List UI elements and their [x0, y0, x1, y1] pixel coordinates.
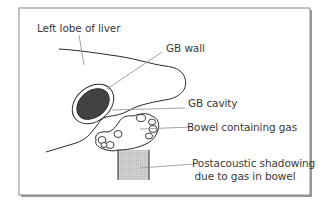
label-gb-cavity: GB cavity — [188, 97, 237, 109]
acoustic-shadow — [118, 150, 149, 180]
ultrasound-diagram: Left lobe of liver GB wall GB cavity Bow… — [0, 0, 325, 206]
label-bowel-containing-gas: Bowel containing gas — [187, 121, 297, 133]
label-gb-wall: GB wall — [166, 42, 205, 54]
label-due-to-gas-in-bowel: due to gas in bowel — [192, 170, 298, 182]
label-postacoustic-shadowing: Postacoustic shadowing — [192, 157, 298, 169]
label-left-lobe-of-liver: Left lobe of liver — [37, 22, 120, 34]
